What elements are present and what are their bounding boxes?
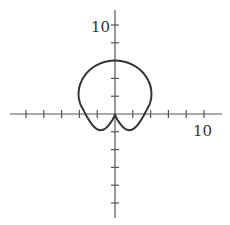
y-axis-label-10: 10 [91,18,110,36]
polar-plot: 10 10 [0,0,230,225]
plot-canvas [0,0,230,225]
x-axis-label-10: 10 [193,122,212,140]
